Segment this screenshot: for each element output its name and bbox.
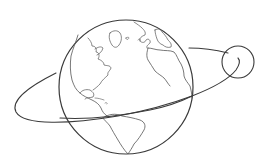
orbit-front-path	[60, 96, 192, 119]
illustration-canvas	[0, 0, 264, 166]
earth-moon-illustration: Earth with orbiting moon, line art	[0, 0, 264, 166]
orbit-path	[15, 48, 239, 122]
moon-icon	[222, 46, 254, 78]
globe-icon	[59, 20, 193, 154]
